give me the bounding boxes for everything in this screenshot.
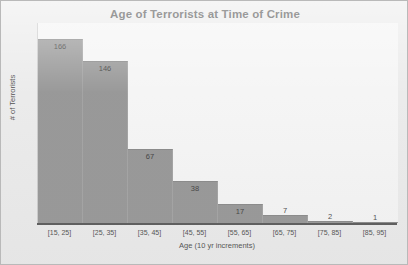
x-tick-label: [65, 75] bbox=[262, 226, 307, 240]
x-tick-label: [25, 35] bbox=[82, 226, 127, 240]
bar[interactable]: 67 bbox=[128, 149, 173, 223]
bar-value-label: 146 bbox=[83, 64, 127, 73]
chart-frame: Age of Terrorists at Time of Crime 16614… bbox=[0, 0, 408, 265]
bar-value-label: 7 bbox=[263, 206, 307, 215]
bars-layer: 166146673817721 bbox=[38, 23, 398, 223]
x-tick-label: [85, 95] bbox=[352, 226, 397, 240]
bar[interactable]: 166 bbox=[38, 39, 83, 223]
bar-value-label: 38 bbox=[173, 184, 217, 193]
bar-value-label: 17 bbox=[218, 207, 262, 216]
bar-slot: 2 bbox=[308, 23, 353, 223]
y-axis-title: # of Terrorists bbox=[8, 63, 17, 133]
plot-area: 166146673817721 bbox=[37, 23, 398, 223]
bar[interactable]: 146 bbox=[83, 61, 128, 223]
bar-value-label: 67 bbox=[128, 152, 172, 161]
bar-value-label: 1 bbox=[353, 213, 397, 222]
x-axis-line bbox=[37, 223, 397, 225]
bar-slot: 17 bbox=[218, 23, 263, 223]
x-tick-label: [75, 85] bbox=[307, 226, 352, 240]
bar-slot: 146 bbox=[83, 23, 128, 223]
bar[interactable]: 7 bbox=[263, 215, 308, 223]
bar[interactable]: 17 bbox=[218, 204, 263, 223]
bar-slot: 38 bbox=[173, 23, 218, 223]
bar-value-label: 2 bbox=[308, 212, 352, 221]
x-tick-label: [45, 55] bbox=[172, 226, 217, 240]
bar-slot: 166 bbox=[38, 23, 83, 223]
chart-title: Age of Terrorists at Time of Crime bbox=[1, 8, 408, 20]
x-tick-label: [15, 25] bbox=[37, 226, 82, 240]
bar-value-label: 166 bbox=[38, 42, 82, 51]
bar[interactable]: 38 bbox=[173, 181, 218, 223]
bar-slot: 67 bbox=[128, 23, 173, 223]
x-tick-label: [35, 45] bbox=[127, 226, 172, 240]
bar-slot: 7 bbox=[263, 23, 308, 223]
x-axis-title: Age (10 yr increments) bbox=[37, 241, 397, 250]
x-tick-label: [55, 65] bbox=[217, 226, 262, 240]
x-axis-tick-labels: [15, 25][25, 35][35, 45][45, 55][55, 65]… bbox=[37, 226, 397, 240]
bar-slot: 1 bbox=[353, 23, 398, 223]
